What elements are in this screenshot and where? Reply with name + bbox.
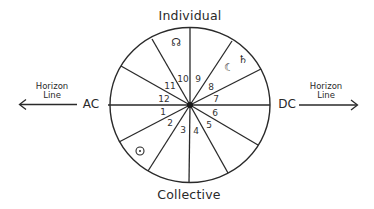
- label-collective: Collective: [157, 189, 220, 202]
- ascendant-label: AC: [83, 98, 99, 110]
- right-horizon-label: Horizon Line: [310, 82, 343, 100]
- house-number-10: 10: [177, 75, 188, 84]
- left-horizon-arrow: [20, 100, 78, 110]
- house-number-3: 3: [180, 126, 186, 135]
- house-cusp-line-9: [190, 105, 228, 173]
- moon-icon: ☾: [224, 62, 234, 73]
- astrology-house-diagram: Individual Collective AC Horizon Line DC…: [0, 0, 374, 209]
- center-hub: [187, 102, 193, 108]
- house-cusp-line-10: [189, 105, 190, 183]
- house-number-9: 9: [195, 75, 201, 84]
- right-horizon-arrow: [299, 100, 358, 110]
- north-node-icon: ☊: [171, 37, 181, 48]
- house-number-7: 7: [213, 95, 219, 104]
- right-horizon-line2: Line: [310, 91, 343, 100]
- house-number-6: 6: [212, 109, 218, 118]
- house-number-11: 11: [164, 82, 175, 91]
- chart-wheel: [0, 0, 374, 209]
- house-cusp-line-12: [119, 105, 190, 142]
- house-number-12: 12: [158, 95, 169, 104]
- left-horizon-line2: Line: [36, 91, 69, 100]
- house-number-1: 1: [160, 108, 166, 117]
- house-cusp-line-11: [148, 105, 190, 171]
- house-number-2: 2: [167, 119, 173, 128]
- house-cusp-line-8: [190, 105, 258, 145]
- house-number-4: 4: [193, 127, 199, 136]
- house-number-8: 8: [208, 83, 214, 92]
- sun-icon: [136, 147, 144, 155]
- label-individual: Individual: [159, 10, 222, 23]
- house-number-5: 5: [206, 121, 212, 130]
- house-cusp-line-2: [121, 66, 190, 105]
- left-horizon-label: Horizon Line: [36, 82, 69, 100]
- saturn-icon: ♄: [238, 54, 248, 65]
- descendant-label: DC: [278, 98, 296, 110]
